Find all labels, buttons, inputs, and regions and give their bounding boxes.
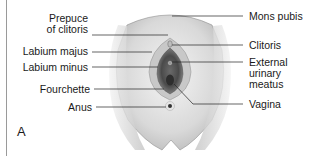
label-line: meatus (249, 79, 288, 90)
label-vagina: Vagina (249, 99, 281, 110)
label-labium-minus: Labium minus (23, 62, 88, 73)
label-clitoris: Clitoris (249, 40, 281, 51)
label-prepuce-of-clitoris: Prepuce of clitoris (47, 13, 88, 35)
label-labium-majus: Labium majus (23, 46, 88, 57)
label-fourchette: Fourchette (40, 84, 90, 95)
panel-letter: A (17, 124, 26, 139)
label-line: of clitoris (47, 24, 88, 35)
label-mons-pubis: Mons pubis (249, 11, 303, 22)
label-external-urinary-meatus: External urinary meatus (249, 57, 288, 90)
label-anus: Anus (68, 102, 92, 113)
